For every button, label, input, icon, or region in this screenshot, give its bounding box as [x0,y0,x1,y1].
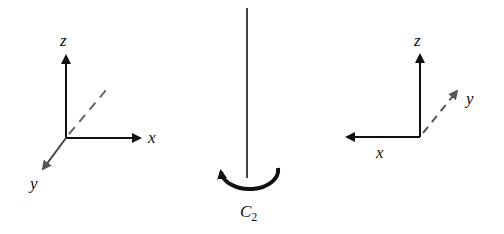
left-z-label: z [59,31,67,50]
left-x-label: x [147,128,156,147]
right-y-label: y [464,89,474,108]
left-y-label: y [28,174,38,193]
c2-label: C2 [240,202,257,224]
right-z-label: z [413,31,421,50]
right-coordinate-frame: z x y [347,31,474,162]
right-y-axis-dashed-arrow [423,91,457,133]
left-coordinate-frame: z x y [28,31,156,193]
rotation-arc-arrow-icon [221,168,278,189]
c2-rotation-axis: C2 [221,8,278,224]
left-y-axis-arrow [43,138,66,169]
c2-rotation-diagram: z x y C2 z x y [0,0,504,234]
right-x-label: x [375,143,384,162]
left-y-back-dashed-line [69,89,107,134]
